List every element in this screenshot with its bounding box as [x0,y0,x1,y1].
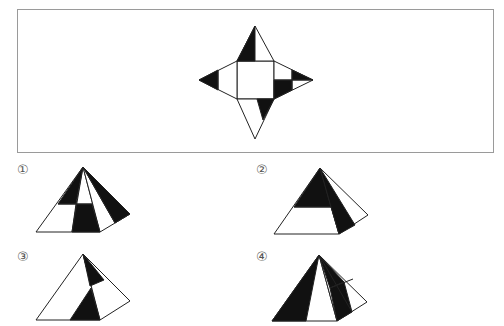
option-2-label[interactable]: ② [256,162,268,177]
net-base-square [237,61,274,99]
option-4-label[interactable]: ④ [256,249,268,264]
option-1-label[interactable]: ① [17,162,29,177]
net-face-bottom [237,99,274,139]
option-2-pyramid[interactable] [274,168,368,234]
option-1-pyramid[interactable] [36,167,130,232]
pyramid-net [199,26,313,139]
option-4-pyramid[interactable] [272,255,367,321]
net-face-top [237,26,274,61]
option-3-pyramid[interactable] [36,254,130,320]
diagram-canvas [0,0,504,326]
option-3-label[interactable]: ③ [17,249,29,264]
net-face-left [199,61,237,99]
net-face-right [274,61,313,99]
